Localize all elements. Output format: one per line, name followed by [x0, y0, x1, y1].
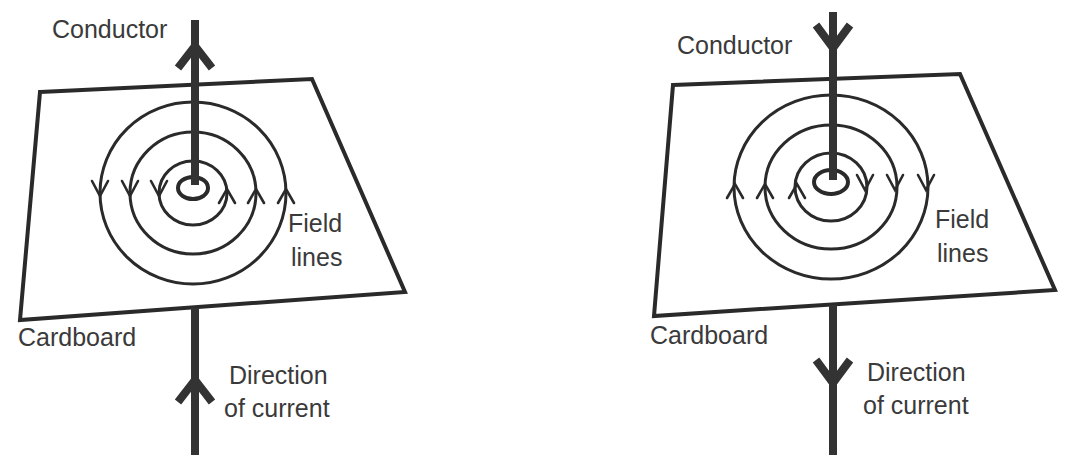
diagram-canvas: Conductor Field lines Cardboard Directio…	[0, 0, 1068, 459]
label-direction-of-current-1: Direction	[229, 361, 328, 389]
label-direction-of-current-2: of current	[224, 394, 330, 422]
panel-left-current-up: Conductor Field lines Cardboard Directio…	[18, 15, 405, 455]
cardboard-sheet	[654, 74, 1055, 316]
label-direction-of-current-1: Direction	[867, 358, 966, 386]
cardboard-sheet	[20, 79, 405, 320]
panel-right-current-down: Conductor Field lines Cardboard Directio…	[650, 12, 1055, 455]
label-field-lines-2: lines	[937, 239, 988, 267]
label-conductor: Conductor	[677, 31, 792, 59]
label-conductor: Conductor	[52, 15, 167, 43]
label-field-lines-2: lines	[291, 243, 342, 271]
label-direction-of-current-2: of current	[863, 391, 969, 419]
label-cardboard: Cardboard	[18, 323, 136, 351]
label-field-lines-1: Field	[288, 209, 342, 237]
label-cardboard: Cardboard	[650, 321, 768, 349]
label-field-lines-1: Field	[935, 205, 989, 233]
